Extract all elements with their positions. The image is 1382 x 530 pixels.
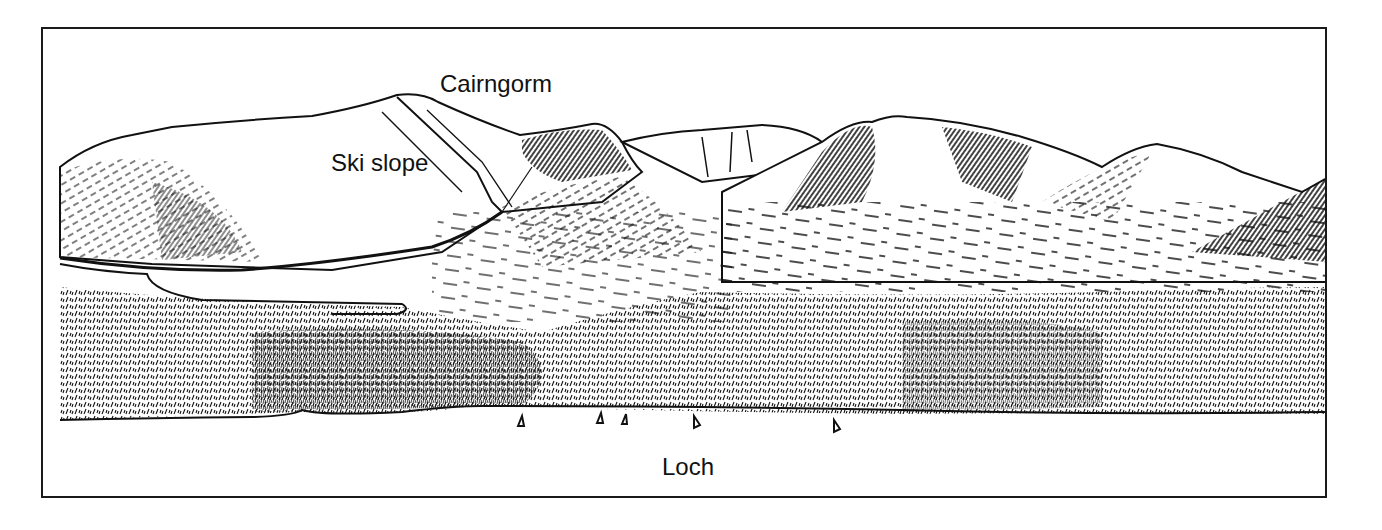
sailboat-icon <box>694 416 700 428</box>
sailboat-icon <box>597 413 603 423</box>
illustration-frame <box>41 27 1327 498</box>
loch-label: Loch <box>662 455 714 479</box>
sailboats <box>518 413 840 432</box>
ski-slope-label: Ski slope <box>331 151 428 175</box>
cairngorm-label: Cairngorm <box>440 72 552 96</box>
landscape-drawing <box>43 29 1327 498</box>
forest <box>60 287 1327 420</box>
sailboat-icon <box>622 414 627 424</box>
sailboat-icon <box>518 416 524 426</box>
sailboat-icon <box>834 420 840 432</box>
